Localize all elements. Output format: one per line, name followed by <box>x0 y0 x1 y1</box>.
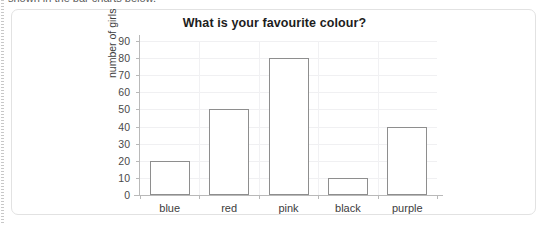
y-axis-tick-label: 60 <box>108 87 130 98</box>
plot-area: 0102030405060708090blueredpinkblackpurpl… <box>140 41 437 195</box>
x-axis-tick <box>437 195 438 199</box>
page-root: shown in the bar charts below. What is y… <box>0 0 549 225</box>
y-axis-tick <box>136 41 140 42</box>
x-axis-label-blue: blue <box>140 202 199 215</box>
x-axis-tick <box>199 195 200 199</box>
bar-pink <box>269 58 309 195</box>
y-axis-tick-label: 80 <box>108 53 130 64</box>
gridline-vertical <box>378 41 379 195</box>
y-axis-tick-label: 30 <box>108 139 130 150</box>
y-axis-line <box>139 35 140 196</box>
chart-title: What is your favourite colour? <box>12 16 537 30</box>
x-axis-line <box>134 195 443 196</box>
scan-edge-dotted-line <box>1 0 4 225</box>
gridline-vertical <box>199 41 200 195</box>
y-axis-tick-label: 70 <box>108 70 130 81</box>
bar-purple <box>387 127 427 195</box>
x-axis-tick <box>378 195 379 199</box>
y-axis-tick <box>136 109 140 110</box>
y-axis-tick <box>136 58 140 59</box>
clipped-prompt-text: shown in the bar charts below. <box>8 0 208 5</box>
gridline-vertical <box>259 41 260 195</box>
y-axis-tick-label: 0 <box>108 190 130 201</box>
y-axis-tick-label: 40 <box>108 122 130 133</box>
x-axis-label-purple: purple <box>378 202 437 215</box>
gridline-horizontal <box>140 41 437 42</box>
y-axis-tick <box>136 127 140 128</box>
gridline-vertical <box>318 41 319 195</box>
y-axis-tick-label: 50 <box>108 104 130 115</box>
bar-red <box>209 109 249 195</box>
y-axis-tick-label: 10 <box>108 173 130 184</box>
y-axis-tick-label: 90 <box>108 36 130 47</box>
y-axis-tick-label: 20 <box>108 156 130 167</box>
x-axis-tick <box>259 195 260 199</box>
chart-card: What is your favourite colour? number of… <box>11 9 536 215</box>
bar-black <box>328 178 368 195</box>
x-axis-tick <box>318 195 319 199</box>
x-axis-label-pink: pink <box>259 202 318 215</box>
bar-blue <box>150 161 190 195</box>
y-axis-tick <box>136 161 140 162</box>
x-axis-tick <box>140 195 141 199</box>
x-axis-label-black: black <box>318 202 377 215</box>
x-axis-label-red: red <box>199 202 258 215</box>
bar-chart: What is your favourite colour? number of… <box>12 10 537 216</box>
y-axis-tick <box>136 144 140 145</box>
y-axis-tick <box>136 75 140 76</box>
y-axis-tick <box>136 178 140 179</box>
y-axis-tick <box>136 92 140 93</box>
